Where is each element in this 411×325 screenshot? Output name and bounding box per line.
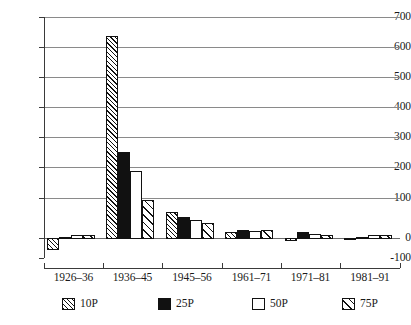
x-tick-mark bbox=[103, 263, 104, 268]
x-tick-label-1936-45: 1936–45 bbox=[103, 272, 162, 284]
x-tick-mark bbox=[400, 263, 401, 268]
bar-chart: 700 600 500 400 300 200 100 0 -100 bbox=[0, 0, 411, 325]
bar-1971-81-10P bbox=[285, 238, 297, 241]
legend-swatch-75P-icon bbox=[342, 298, 355, 310]
bar-1981-91-10P bbox=[344, 238, 356, 240]
legend-label-25P: 25P bbox=[176, 298, 194, 310]
legend-item-25P: 25P bbox=[158, 296, 194, 312]
bar-1936-45-10P bbox=[106, 36, 118, 239]
x-tick-label-1961-71: 1961–71 bbox=[222, 272, 281, 284]
bar-1936-45-75P bbox=[142, 200, 154, 239]
bar-1961-71-10P bbox=[225, 232, 237, 239]
gridline-500 bbox=[44, 77, 400, 78]
chart-legend: 10P 25P 50P 75P bbox=[0, 296, 411, 318]
bar-1981-91-25P bbox=[356, 237, 368, 239]
bar-1945-56-10P bbox=[166, 212, 178, 239]
x-tick-label-1971-81: 1971–81 bbox=[281, 272, 340, 284]
legend-label-10P: 10P bbox=[80, 298, 98, 310]
bar-1945-56-25P bbox=[178, 217, 190, 239]
bar-1926-36-25P bbox=[59, 237, 71, 239]
gridline-100 bbox=[44, 198, 400, 199]
legend-label-75P: 75P bbox=[360, 298, 378, 310]
bar-1981-91-50P bbox=[368, 235, 380, 239]
bar-1926-36-50P bbox=[71, 235, 83, 239]
legend-item-10P: 10P bbox=[62, 296, 98, 312]
bar-1936-45-50P bbox=[130, 171, 142, 239]
bar-1945-56-75P bbox=[202, 223, 214, 239]
gridline-600 bbox=[44, 47, 400, 48]
x-tick-mark bbox=[162, 263, 163, 268]
bar-1961-71-25P bbox=[237, 230, 249, 239]
legend-item-50P: 50P bbox=[252, 296, 288, 312]
x-tick-label-1945-56: 1945–56 bbox=[162, 272, 222, 284]
x-axis-line bbox=[44, 268, 400, 269]
x-tick-mark bbox=[340, 263, 341, 268]
x-tick-label-1981-91: 1981–91 bbox=[340, 272, 400, 284]
x-tick-mark bbox=[222, 263, 223, 268]
gridline-300 bbox=[44, 137, 400, 138]
plot-area: 700 600 500 400 300 200 100 0 -100 bbox=[0, 0, 411, 268]
gridline-700 bbox=[44, 17, 400, 18]
y-tick-label: -100 bbox=[377, 252, 411, 264]
legend-item-75P: 75P bbox=[342, 296, 378, 312]
y-tick-mark bbox=[39, 258, 44, 259]
bar-1936-45-25P bbox=[118, 152, 130, 239]
bar-1926-36-75P bbox=[83, 235, 95, 239]
legend-swatch-10P-icon bbox=[62, 298, 75, 310]
bar-1981-91-75P bbox=[380, 235, 392, 239]
legend-swatch-50P-icon bbox=[252, 298, 265, 310]
legend-swatch-25P-icon bbox=[158, 298, 171, 310]
bar-1961-71-50P bbox=[249, 231, 261, 239]
x-tick-mark bbox=[44, 263, 45, 268]
bar-1971-81-50P bbox=[309, 234, 321, 239]
gridline-200 bbox=[44, 167, 400, 168]
bar-1971-81-25P bbox=[297, 232, 309, 239]
x-tick-label-1926-36: 1926–36 bbox=[44, 272, 103, 284]
bar-1945-56-50P bbox=[190, 220, 202, 239]
y-axis-line bbox=[44, 17, 45, 258]
bar-1926-36-10P bbox=[47, 238, 59, 250]
legend-label-50P: 50P bbox=[270, 298, 288, 310]
bar-1961-71-75P bbox=[261, 230, 273, 239]
bar-1971-81-75P bbox=[321, 235, 333, 239]
gridline-400 bbox=[44, 107, 400, 108]
x-tick-mark bbox=[281, 263, 282, 268]
